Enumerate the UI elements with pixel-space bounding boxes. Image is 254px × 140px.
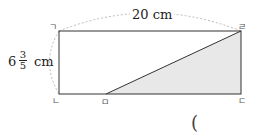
fraction-denominator: 5 [19,61,27,71]
answer-paren: ( [191,112,198,133]
height-unit: cm [34,54,54,69]
vertex-top-right: ㄹ [238,20,246,33]
vertex-bottom-left: ㄴ [52,94,60,107]
width-label: 20 cm [130,7,174,22]
vertex-bottom-point: ㅁ [101,95,109,108]
height-whole: 6 [8,54,16,69]
vertex-bottom-right: ㄷ [238,94,246,107]
vertex-top-left: ㄱ [49,20,57,33]
rectangle-diagram [0,0,254,140]
height-fraction: 3 5 [19,50,27,71]
fraction-numerator: 3 [19,50,27,60]
